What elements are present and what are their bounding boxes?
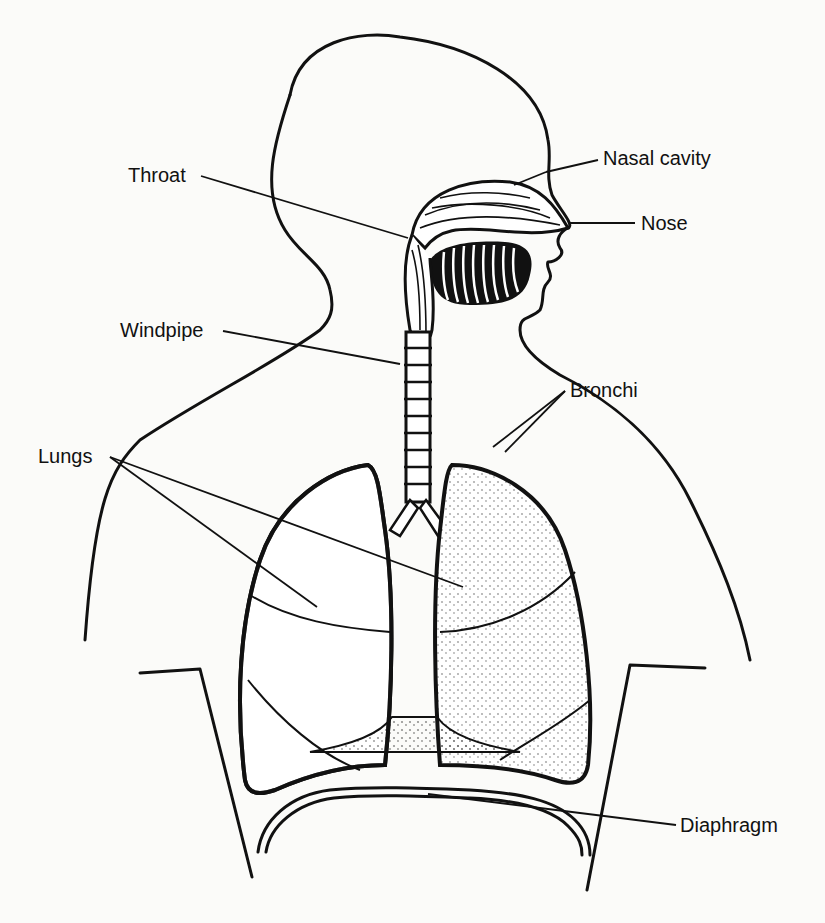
label-windpipe: Windpipe xyxy=(120,319,203,341)
nasal-cavity xyxy=(412,181,568,248)
throat-pharynx xyxy=(405,235,433,341)
diaphragm xyxy=(258,788,590,855)
windpipe xyxy=(390,332,448,536)
label-diaphragm: Diaphragm xyxy=(680,814,778,836)
label-nose: Nose xyxy=(641,212,688,234)
label-bronchi: Bronchi xyxy=(570,379,638,401)
tongue xyxy=(430,242,532,305)
respiratory-diagram: Nasal cavity Throat Nose Windpipe Bronch… xyxy=(0,0,825,923)
label-lungs: Lungs xyxy=(38,445,93,467)
label-throat: Throat xyxy=(128,164,186,186)
label-nasal-cavity: Nasal cavity xyxy=(603,147,711,169)
